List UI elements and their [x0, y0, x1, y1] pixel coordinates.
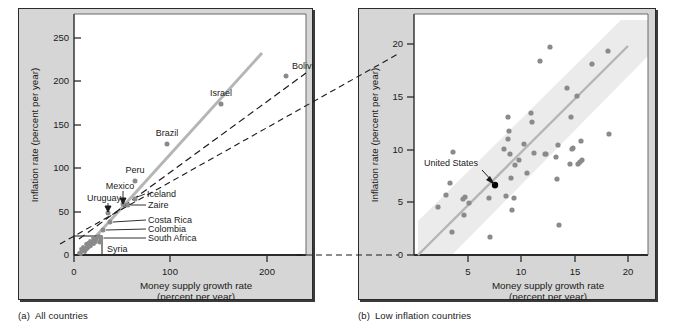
chart-a-x-axis-title-line1: Money supply growth rate	[140, 280, 253, 291]
panel-all-countries: 250 200 150 100 50 0 0 100 200 Inflation…	[18, 8, 313, 300]
chart-a-ytick-100: 100	[53, 162, 69, 173]
chart-a-ytick-250: 250	[53, 32, 69, 43]
caption-a-tag: (a)	[18, 310, 30, 321]
caption-b-tag: (b)	[358, 310, 370, 321]
figure-root: 250 200 150 100 50 0 0 100 200 Inflation…	[0, 0, 675, 332]
chart-b-ytick-10: 10	[392, 144, 403, 155]
label-bolivia: Bolivia	[292, 61, 313, 71]
chart-b-ytick-15: 15	[392, 91, 403, 102]
label-zaire: Zaire	[148, 200, 169, 210]
label-israel: Israel	[210, 88, 232, 98]
chart-b-y-axis-title: Inflation rate (percent per year)	[369, 68, 380, 203]
chart-a-x-axis-title-line2: (percent per year)	[157, 291, 235, 300]
chart-b-xtick-20: 20	[623, 266, 634, 277]
chart-a-xtick-200: 200	[259, 266, 275, 277]
chart-b-x-axis-title-line1: Money supply growth rate	[492, 280, 605, 291]
chart-a-x-ticks	[74, 255, 267, 262]
chart-a-ytick-200: 200	[53, 75, 69, 86]
point-bolivia	[284, 74, 289, 79]
chart-b-x-ticks	[468, 255, 628, 262]
chart-b-ytick-5: 5	[398, 196, 403, 207]
point-iceland	[133, 197, 138, 202]
caption-panel-a: (a)All countries	[18, 310, 88, 321]
label-mexico: Mexico	[106, 181, 135, 191]
chart-b-canvas: 20 15 10 5 0 5 10 15 20 Inflation rate (…	[358, 8, 656, 300]
label-peru: Peru	[125, 165, 144, 175]
chart-b-xtick-10: 10	[516, 266, 527, 277]
chart-b-xtick-5: 5	[465, 266, 470, 277]
point-brazil	[165, 142, 170, 147]
point-colombia	[101, 228, 106, 233]
chart-a-y-axis-title: Inflation rate (percent per year)	[29, 68, 40, 203]
caption-b-text: Low inflation countries	[375, 310, 471, 321]
chart-b-y-ticks	[407, 44, 414, 255]
label-syria: Syria	[107, 244, 128, 254]
chart-a-ytick-50: 50	[58, 206, 69, 217]
chart-b-ytick-0: 0	[398, 249, 403, 260]
point-costa-rica	[108, 220, 113, 225]
label-south-africa: South Africa	[148, 233, 197, 243]
point-syria	[98, 240, 103, 245]
chart-a-canvas: 250 200 150 100 50 0 0 100 200 Inflation…	[18, 8, 313, 300]
chart-b-xtick-15: 15	[570, 266, 581, 277]
label-iceland: Iceland	[147, 189, 176, 199]
label-uruguay: Uruguay	[87, 193, 122, 203]
caption-a-text: All countries	[35, 310, 88, 321]
label-brazil: Brazil	[156, 128, 179, 138]
chart-a-xtick-0: 0	[71, 266, 76, 277]
chart-b-x-axis-title-line2: (percent per year)	[509, 291, 587, 300]
point-zaire	[126, 203, 131, 208]
label-united-states: United States	[424, 158, 479, 168]
chart-b-ytick-20: 20	[392, 38, 403, 49]
chart-a-ytick-0: 0	[64, 249, 69, 260]
panel-low-inflation-countries: 20 15 10 5 0 5 10 15 20 Inflation rate (…	[358, 8, 656, 300]
point-israel	[219, 102, 224, 107]
chart-a-ytick-150: 150	[53, 119, 69, 130]
chart-a-xtick-100: 100	[162, 266, 178, 277]
caption-panel-b: (b)Low inflation countries	[358, 310, 471, 321]
